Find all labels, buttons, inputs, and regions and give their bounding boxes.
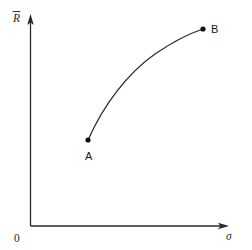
y-axis-label: R — [12, 12, 20, 24]
chart-canvas: R σ 0 A B — [0, 0, 252, 250]
x-axis-label: σ — [226, 230, 233, 242]
y-axis-label-text: R — [12, 12, 20, 24]
origin-label: 0 — [14, 232, 20, 244]
point-b-label: B — [211, 23, 218, 35]
curve-a-to-b — [88, 29, 203, 140]
figure-container: R σ 0 A B — [0, 0, 252, 250]
data-point-a — [85, 137, 90, 142]
data-point-b — [200, 26, 205, 31]
point-a-label: A — [85, 150, 93, 162]
